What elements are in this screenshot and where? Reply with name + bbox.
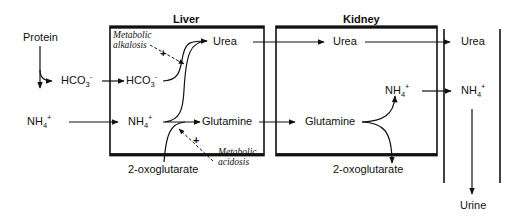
glutamine-liver-label: Glutamine: [202, 116, 252, 127]
nh4-subscript: 4: [43, 121, 47, 130]
protein-label: Protein: [23, 32, 58, 43]
nh4-urine-label: NH4+: [461, 85, 485, 96]
metabolic-alkalosis-label: Metabolic alkalosis: [113, 31, 152, 51]
nh4-subscript: 4: [401, 90, 405, 99]
acidosis-plus-sign: +: [193, 135, 199, 146]
nh4-superscript: +: [148, 113, 152, 122]
arrow-glutamine-to-nh4: [362, 96, 395, 122]
urine-label: Urine: [460, 200, 486, 211]
hco3-text: HCO: [126, 74, 150, 86]
nh4-subscript: 4: [477, 90, 481, 99]
hco3-subscript: 3: [150, 80, 154, 89]
nh4-text: NH: [27, 115, 43, 127]
nh4-blood-label: NH4+: [27, 116, 51, 127]
hco3-superscript: -: [155, 72, 158, 81]
nh4-text: NH: [461, 84, 477, 96]
nitrogen-metabolism-diagram: [0, 0, 524, 218]
nh4-text: NH: [128, 115, 144, 127]
metabolic-acidosis-label: Metabolic acidosis: [218, 148, 257, 168]
alkalosis-plus-sign: +: [160, 48, 166, 59]
nh4-text: NH: [385, 84, 401, 96]
acidosis-line-2: acidosis: [218, 158, 257, 168]
hco3-text: HCO: [61, 74, 85, 86]
arrow-nh4-to-urea: [165, 41, 207, 122]
nh4-superscript: +: [47, 113, 51, 122]
arrow-protein-to-hco3: [40, 70, 52, 81]
nh4-liver-label: NH4+: [128, 116, 152, 127]
kidney-title: Kidney: [343, 14, 380, 25]
alkalosis-line-2: alkalosis: [113, 41, 152, 51]
hco3-liver-label: HCO3-: [126, 75, 157, 86]
hco3-blood-label: HCO3-: [61, 75, 92, 86]
arrow-glutamine-to-oxoglutarate: [362, 122, 392, 163]
urea-kidney-label: Urea: [333, 36, 357, 47]
urea-liver-label: Urea: [213, 36, 237, 47]
nh4-superscript: +: [405, 82, 409, 91]
urea-urine-label: Urea: [461, 36, 485, 47]
glutamine-kidney-label: Glutamine: [305, 116, 355, 127]
nh4-superscript: +: [481, 82, 485, 91]
liver-title: Liver: [173, 14, 199, 25]
oxoglutarate-kidney-label: 2-oxoglutarate: [333, 164, 403, 175]
alkalosis-stimulation-arrow: [150, 45, 184, 64]
oxoglutarate-liver-label: 2-oxoglutarate: [128, 164, 198, 175]
nh4-subscript: 4: [144, 121, 148, 130]
nh4-kidney-label: NH4+: [385, 85, 409, 96]
hco3-subscript: 3: [85, 80, 89, 89]
hco3-superscript: -: [90, 72, 93, 81]
